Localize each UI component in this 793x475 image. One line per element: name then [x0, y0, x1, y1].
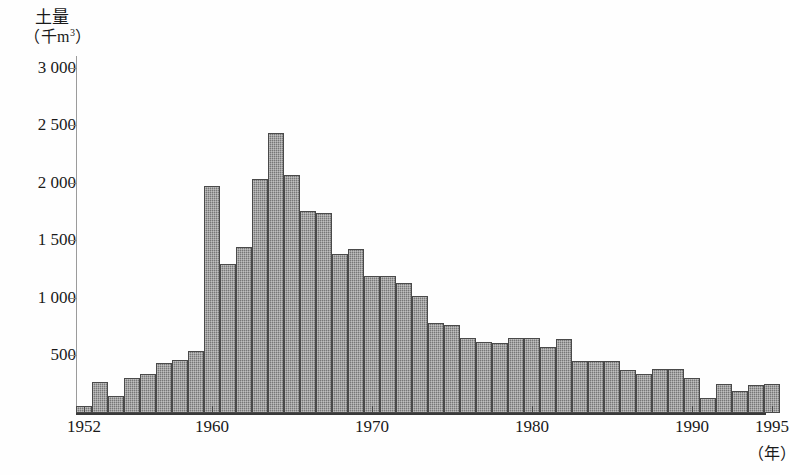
x-tick-label: 1960: [195, 417, 229, 437]
x-tick-mark: [692, 406, 693, 413]
x-tick-label: 1980: [515, 417, 549, 437]
x-tick-mark: [532, 406, 533, 413]
x-tick-label: 1952: [67, 417, 101, 437]
x-tick-mark: [84, 406, 85, 413]
x-axis-unit-label: （年）: [748, 440, 793, 464]
x-tick-mark: [372, 406, 373, 413]
x-tick-label: 1970: [355, 417, 389, 437]
x-tick-mark: [772, 406, 773, 413]
x-tick-label: 1990: [675, 417, 709, 437]
x-tick-label: 1995: [755, 417, 789, 437]
x-tick-mark: [212, 406, 213, 413]
